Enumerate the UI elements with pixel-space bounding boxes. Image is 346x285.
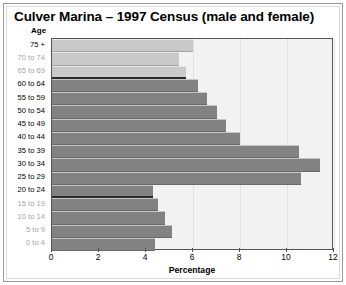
x-axis-tick-label: 0 [49,252,54,262]
y-axis-tick-label: 15 to 19 [18,199,45,208]
x-axis-tick-label: 6 [190,252,195,262]
y-axis-labels: 75 +70 to 7465 to 6960 to 6455 to 5950 t… [0,38,48,250]
y-axis-tick-label: 30 to 34 [18,159,45,168]
x-axis-labels: 024681012 [51,252,333,266]
x-axis-tick-label: 10 [281,252,290,262]
y-axis-tick-label: 10 to 14 [18,212,45,221]
y-axis-tick-label: 5 to 9 [26,225,45,234]
bar [52,172,301,185]
y-axis-tick-label: 60 to 64 [18,79,45,88]
y-axis-tick-label: 50 to 54 [18,106,45,115]
y-axis-tick-label: 45 to 49 [18,119,45,128]
x-axis-tick-label: 4 [143,252,148,262]
page-title: Culver Marina – 1997 Census (male and fe… [14,9,334,24]
bar [52,225,172,238]
bar [52,66,186,79]
bar [52,185,153,198]
bars-container [52,39,332,249]
y-axis-tick-label: 20 to 24 [18,185,45,194]
bar [52,39,193,52]
bar [52,92,207,105]
chart-page: Culver Marina – 1997 Census (male and fe… [0,0,346,285]
bar [52,132,240,145]
y-axis-title: Age [31,26,46,35]
plot-area [51,38,333,250]
x-axis-title: Percentage [51,265,333,275]
y-axis-tick-label: 65 to 69 [18,66,45,75]
x-axis-tick-label: 2 [96,252,101,262]
y-axis-tick-label: 25 to 29 [18,172,45,181]
bar [52,238,155,251]
y-axis-tick-label: 70 to 74 [18,53,45,62]
bar [52,198,158,211]
y-axis-tick-label: 40 to 44 [18,132,45,141]
bar [52,79,198,92]
y-axis-tick-label: 0 to 4 [26,238,45,247]
bar [52,158,320,171]
bar [52,145,299,158]
x-axis-tick-label: 8 [237,252,242,262]
gridline [334,39,335,249]
y-axis-tick-label: 55 to 59 [18,93,45,102]
y-axis-tick-label: 35 to 39 [18,146,45,155]
bar [52,52,179,65]
bar [52,119,226,132]
bar [52,105,217,118]
y-axis-tick-label: 75 + [30,40,45,49]
x-axis-tick-label: 12 [328,252,337,262]
bar [52,211,165,224]
